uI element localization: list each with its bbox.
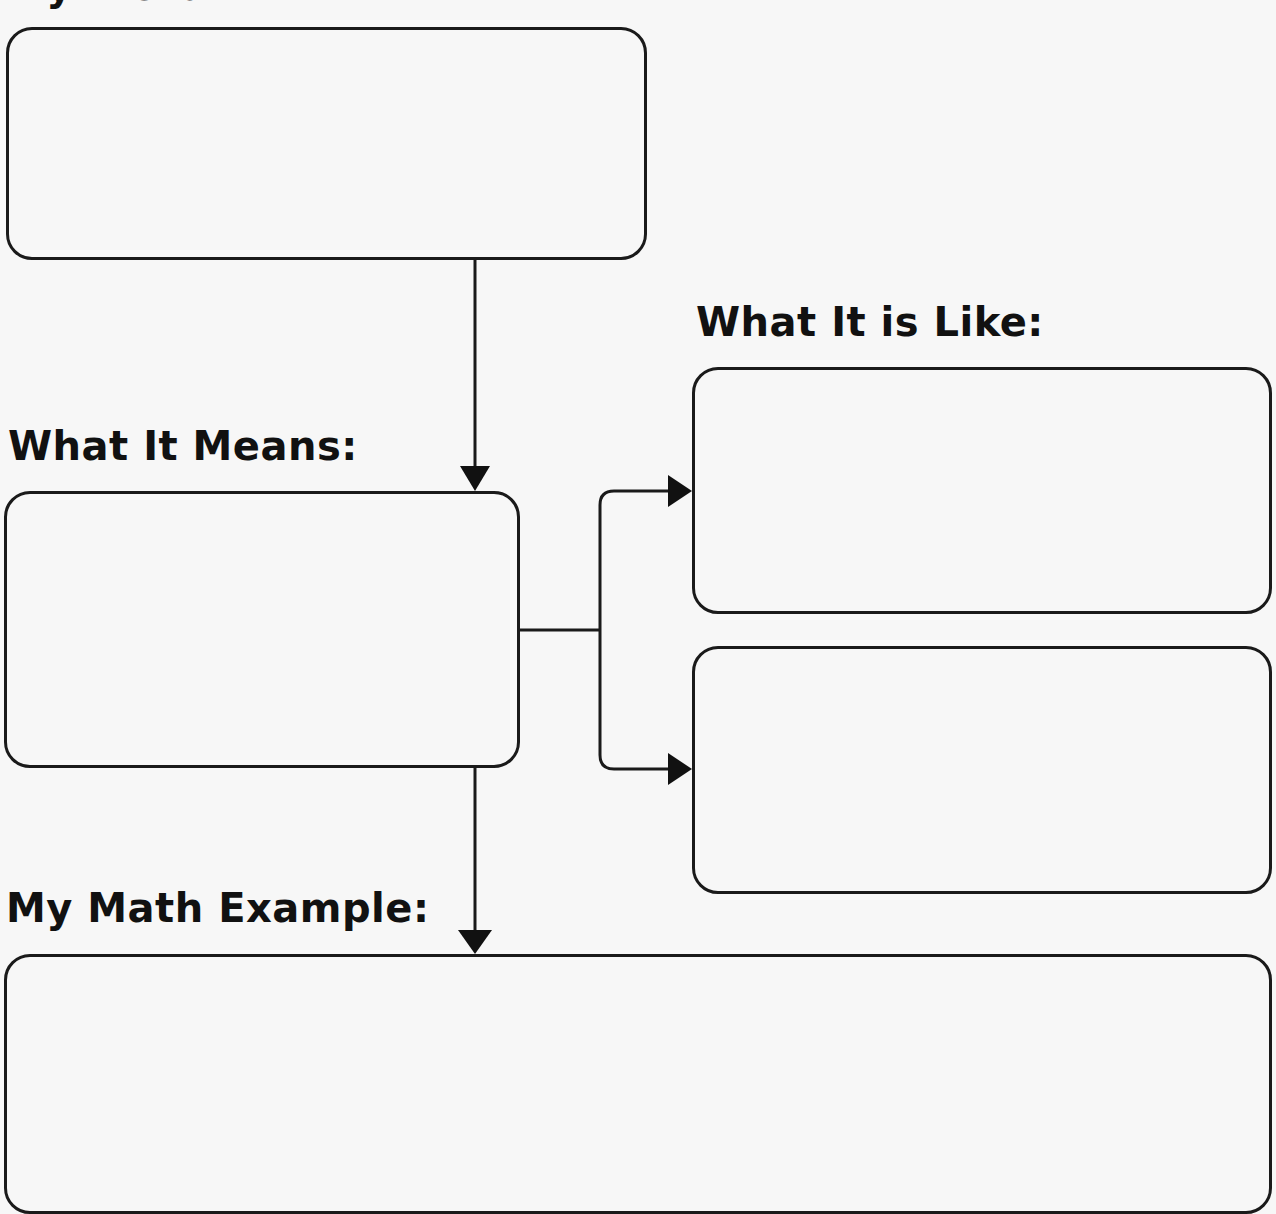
arrow-right-icon bbox=[668, 753, 692, 785]
arrowheads bbox=[458, 466, 692, 954]
arrow-down-icon bbox=[460, 466, 490, 491]
arrow-down-icon bbox=[458, 930, 492, 954]
arrow-right-icon bbox=[668, 475, 692, 507]
